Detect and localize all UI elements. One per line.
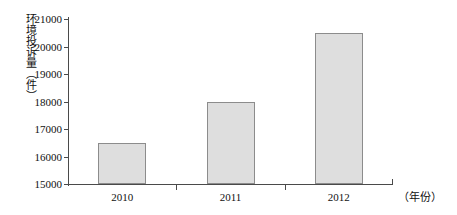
y-axis-tick-label: 16000 bbox=[18, 151, 62, 162]
x-axis-tick-label: 2011 bbox=[220, 191, 242, 203]
y-axis-tick-label: 15000 bbox=[18, 179, 62, 190]
bar bbox=[98, 143, 146, 184]
bar bbox=[315, 33, 363, 184]
y-axis-tick-label-group: 21000200001900018000170001600015000 bbox=[18, 0, 62, 215]
plot-area: 201020112012 bbox=[68, 19, 393, 184]
y-axis-tick-mark bbox=[64, 19, 69, 20]
y-axis-tick-mark bbox=[64, 157, 69, 158]
y-axis-tick-mark bbox=[64, 102, 69, 103]
y-axis-tick-label: 21000 bbox=[18, 14, 62, 25]
y-axis-tick-mark bbox=[64, 47, 69, 48]
y-axis-tick-label: 17000 bbox=[18, 124, 62, 135]
y-axis-tick-mark bbox=[64, 184, 69, 185]
bar bbox=[207, 102, 255, 184]
y-axis-tick-mark bbox=[64, 129, 69, 130]
bar-chart-figure: 环境投诉量（件） 2100020000190001800017000160001… bbox=[0, 0, 457, 215]
x-axis-line bbox=[68, 184, 393, 185]
x-axis-title: （年份） bbox=[398, 191, 442, 203]
y-axis-tick-label: 20000 bbox=[18, 41, 62, 52]
y-axis-tick-label: 18000 bbox=[18, 96, 62, 107]
x-axis-end-cap bbox=[392, 179, 393, 185]
x-axis-tick-mark bbox=[285, 185, 286, 190]
y-axis-tick-label: 19000 bbox=[18, 69, 62, 80]
x-axis-tick-label: 2012 bbox=[328, 191, 350, 203]
x-axis-tick-mark bbox=[176, 185, 177, 190]
y-axis-tick-mark bbox=[64, 74, 69, 75]
x-axis-tick-label: 2010 bbox=[111, 191, 133, 203]
